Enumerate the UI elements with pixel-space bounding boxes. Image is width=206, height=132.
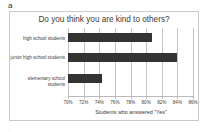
x-axis-tick-labels: 70%72%74%76%78%80%82%84%86% bbox=[68, 99, 193, 107]
bar-junior-high-school-students bbox=[68, 53, 177, 62]
bar-elementary-school-students bbox=[68, 74, 102, 83]
next-panel-marker: · bbox=[8, 126, 11, 130]
plot-wrapper: high school students junior high school … bbox=[10, 28, 198, 106]
x-axis-tick-label: 84% bbox=[173, 99, 182, 106]
x-axis-tick-label: 80% bbox=[142, 99, 151, 106]
gridline bbox=[177, 28, 178, 96]
x-axis-tick-label: 82% bbox=[157, 99, 166, 106]
gridline bbox=[193, 28, 194, 96]
bar-high-school-students bbox=[68, 33, 152, 42]
x-axis-title: Students who answered "Yes" bbox=[68, 108, 194, 116]
x-axis-tick-label: 76% bbox=[110, 99, 119, 106]
x-axis-tick-label: 70% bbox=[63, 99, 72, 106]
gridline bbox=[162, 28, 163, 96]
category-axis-labels: high school students junior high school … bbox=[10, 28, 67, 96]
category-label-junior-high-school: junior high school students bbox=[10, 55, 65, 61]
chart-title: Do you think you are kind to others? bbox=[10, 15, 198, 25]
plot-area bbox=[68, 28, 193, 96]
x-axis-tick-label: 78% bbox=[126, 99, 135, 106]
category-label-elementary-school: elementary school students bbox=[10, 76, 65, 88]
chart-frame: Do you think you are kind to others? hig… bbox=[9, 11, 199, 121]
panel-letter-label: a bbox=[8, 1, 12, 10]
category-label-high-school: high school students bbox=[10, 36, 65, 42]
x-axis-tick-label: 86% bbox=[188, 99, 197, 106]
x-axis-tick-label: 72% bbox=[79, 99, 88, 106]
x-axis-tick-label: 74% bbox=[95, 99, 104, 106]
